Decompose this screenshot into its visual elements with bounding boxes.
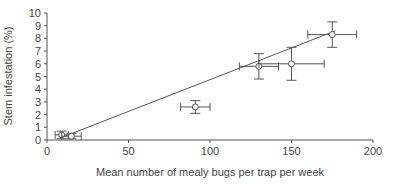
y-tick-label: 9 [35, 20, 41, 32]
x-tick-label: 50 [122, 145, 134, 157]
regression-line [62, 31, 336, 138]
y-tick-label: 5 [35, 71, 41, 83]
axes: 012345678910050100150200 [29, 7, 382, 157]
data-point [259, 47, 324, 80]
x-tick-label: 200 [364, 145, 382, 157]
y-tick-label: 8 [35, 32, 41, 44]
x-tick-label: 150 [282, 145, 300, 157]
y-tick-label: 3 [35, 96, 41, 108]
y-tick-label: 1 [35, 121, 41, 133]
data-point [181, 101, 210, 114]
data-point [308, 22, 357, 47]
x-tick-label: 0 [44, 145, 50, 157]
y-tick-label: 0 [35, 134, 41, 146]
x-axis-title: Mean number of mealy bugs per trap per w… [96, 166, 325, 178]
scatter-chart: 012345678910050100150200 Mean number of … [0, 0, 397, 184]
y-tick-label: 4 [35, 83, 41, 95]
y-tick-label: 10 [29, 7, 41, 19]
fit-line [62, 31, 336, 138]
circle-marker-icon [192, 104, 198, 110]
circle-marker-icon [329, 32, 335, 38]
y-tick-label: 7 [35, 45, 41, 57]
circle-marker-icon [68, 133, 74, 139]
x-tick-label: 100 [201, 145, 219, 157]
y-axis-title: Stem infestation (%) [2, 26, 14, 125]
circle-marker-icon [289, 61, 295, 67]
y-tick-label: 6 [35, 58, 41, 70]
y-tick-label: 2 [35, 109, 41, 121]
